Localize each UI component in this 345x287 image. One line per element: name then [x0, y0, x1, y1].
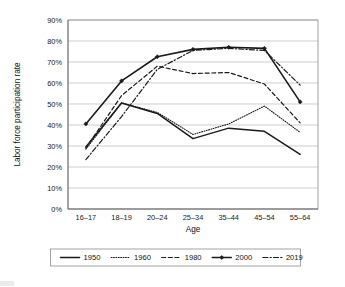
y-axis-title: Labor force participation rate	[13, 62, 22, 167]
legend-label-1980: 1980	[185, 253, 202, 262]
y-tick-label: 20%	[47, 163, 62, 172]
x-tick-label: 35–44	[218, 213, 239, 222]
legend-label-1960: 1960	[134, 253, 151, 262]
y-tick-label: 60%	[47, 79, 62, 88]
x-tick-label: 16–17	[76, 213, 97, 222]
x-tick-label: 18–19	[111, 213, 132, 222]
x-tick-label: 20–24	[147, 213, 168, 222]
y-tick-label: 50%	[47, 100, 62, 109]
legend-label-1950: 1950	[84, 253, 101, 262]
y-tick-label: 70%	[47, 58, 62, 67]
x-tick-label: 25–34	[183, 213, 204, 222]
series-line-1960	[86, 103, 300, 149]
legend-label-2019: 2019	[286, 253, 303, 262]
legend-label-2000: 2000	[235, 253, 252, 262]
y-tick-label: 80%	[47, 37, 62, 46]
y-tick-label: 40%	[47, 121, 62, 130]
figure-container: 0%10%20%30%40%50%60%70%80%90%16–1718–192…	[0, 0, 345, 287]
y-tick-label: 30%	[47, 142, 62, 151]
x-axis-title: Age	[186, 225, 201, 234]
y-tick-label: 0%	[51, 205, 62, 214]
page-edge-artifact	[0, 281, 14, 286]
y-tick-label: 90%	[47, 16, 62, 25]
labor-force-participation-line-chart: 0%10%20%30%40%50%60%70%80%90%16–1718–192…	[0, 0, 345, 287]
y-tick-label: 10%	[47, 184, 62, 193]
x-tick-label: 55–64	[290, 213, 311, 222]
x-tick-label: 45–54	[254, 213, 275, 222]
series-line-1950	[86, 103, 300, 154]
series-line-2000	[86, 47, 300, 124]
